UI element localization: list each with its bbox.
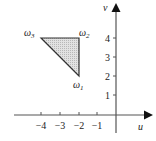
v-tick-label: 4 xyxy=(105,33,110,44)
u-tick-label: −2 xyxy=(74,120,85,131)
u-tick-label: −4 xyxy=(36,120,47,131)
u-tick-label: −3 xyxy=(55,120,66,131)
vertex-label-omega3: ω3 xyxy=(24,27,35,40)
triangle-region xyxy=(41,38,79,76)
vertex-label-omega1: ω1 xyxy=(73,79,84,92)
v-axis-arrow-icon xyxy=(112,3,121,12)
v-tick-label: 2 xyxy=(105,71,110,82)
u-tick-label: −1 xyxy=(92,120,103,131)
vertex-label-omega2: ω2 xyxy=(79,27,90,40)
u-axis-arrow-icon xyxy=(144,111,153,120)
v-axis-label: v xyxy=(103,2,108,13)
v-tick-label: 1 xyxy=(105,90,110,101)
v-tick-label: 3 xyxy=(105,52,110,63)
uv-plane-diagram: −4 −3 −2 −1 4 3 2 1 v u ω3 ω2 ω1 xyxy=(0,0,156,141)
u-axis-label: u xyxy=(138,121,143,132)
